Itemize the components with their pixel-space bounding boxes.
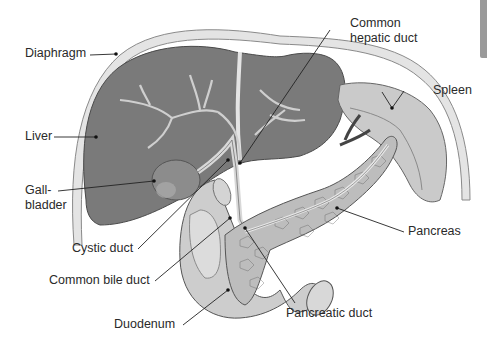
- label-common-hepatic-duct: Common hepatic duct: [350, 16, 417, 46]
- anatomy-diagram: Diaphragm Common hepatic duct Spleen Liv…: [0, 0, 487, 353]
- label-gallbladder: Gall- bladder: [25, 183, 67, 213]
- label-spleen: Spleen: [433, 83, 472, 98]
- label-duodenum: Duodenum: [114, 317, 175, 332]
- label-pancreatic-duct: Pancreatic duct: [286, 306, 372, 321]
- label-liver: Liver: [25, 129, 52, 144]
- label-common-bile-duct: Common bile duct: [49, 273, 150, 288]
- label-cystic-duct: Cystic duct: [72, 241, 133, 256]
- label-diaphragm: Diaphragm: [25, 46, 86, 61]
- label-pancreas: Pancreas: [408, 224, 461, 239]
